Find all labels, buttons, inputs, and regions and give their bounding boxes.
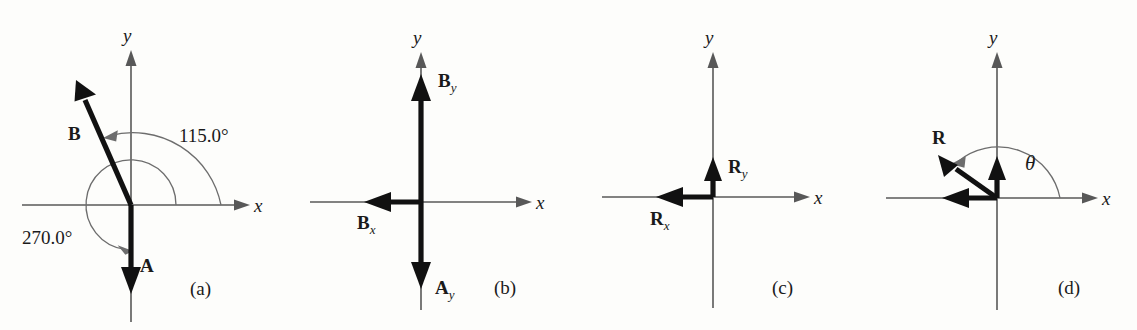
vector-B xyxy=(75,80,132,205)
vector-label-R: R xyxy=(932,127,946,148)
panel-a: y x B A 115.0° 270.0° (a) xyxy=(0,0,280,330)
panel-d: y x R θ (d) xyxy=(850,0,1137,330)
panel-a-canvas: y x B A 115.0° 270.0° (a) xyxy=(0,0,280,330)
panel-c: y x Ry Rx (c) xyxy=(560,0,850,330)
vector-Bx xyxy=(364,192,421,212)
panel-c-canvas: y x Ry Rx (c) xyxy=(560,0,850,330)
vector-label-Rx: Rx xyxy=(650,208,670,233)
y-axis-label-c: y xyxy=(703,27,714,48)
x-axis-label-d: x xyxy=(1101,188,1111,209)
vector-label-Ay: Ay xyxy=(435,277,455,302)
x-axis-label-a: x xyxy=(253,195,263,216)
vector-By xyxy=(411,74,431,202)
panel-b-canvas: y x By Bx Ay (b) xyxy=(280,0,560,330)
y-axis-label-b: y xyxy=(411,27,422,48)
vector-diagram-figure: y x B A 115.0° 270.0° (a) xyxy=(0,0,1137,330)
vector-Ry xyxy=(704,157,722,197)
y-axis-label-a: y xyxy=(121,25,132,46)
panel-caption-a: (a) xyxy=(190,278,211,300)
panel-d-canvas: y x R θ (d) xyxy=(850,0,1137,330)
y-axis-label-d: y xyxy=(987,27,998,48)
vector-label-B: B xyxy=(68,123,81,144)
panel-b: y x By Bx Ay (b) xyxy=(280,0,560,330)
x-axis-label-c: x xyxy=(813,187,823,208)
angle-label-115: 115.0° xyxy=(179,125,229,146)
vector-Rx xyxy=(656,187,713,207)
vector-label-A: A xyxy=(140,255,154,276)
angle-label-270: 270.0° xyxy=(22,227,72,248)
panel-caption-b: (b) xyxy=(494,277,516,299)
x-axis-a xyxy=(22,200,250,211)
vector-label-Ry: Ry xyxy=(728,156,748,181)
panel-caption-d: (d) xyxy=(1058,277,1080,299)
vector-label-Bx: Bx xyxy=(357,212,376,237)
panel-caption-c: (c) xyxy=(772,277,793,299)
vector-label-By: By xyxy=(438,70,457,95)
vector-Ay xyxy=(411,202,431,289)
x-axis-label-b: x xyxy=(535,192,545,213)
angle-label-theta: θ xyxy=(1025,151,1035,175)
